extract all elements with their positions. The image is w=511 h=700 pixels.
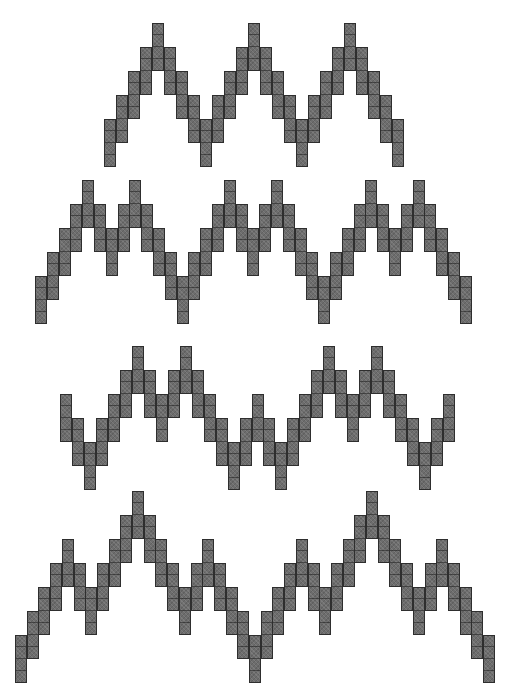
stitch-column: [272, 587, 284, 635]
stitch-column: [389, 539, 401, 587]
stitch-column: [319, 587, 331, 635]
stitch-column: [471, 611, 483, 659]
stitch-column: [155, 539, 167, 587]
stitch-column: [413, 587, 425, 635]
stitch-column: [249, 635, 261, 683]
stitch-column: [179, 587, 191, 635]
stitch-column: [483, 635, 495, 683]
stitch-column: [436, 539, 448, 587]
stitch-column: [448, 563, 460, 611]
stitch-column: [237, 611, 249, 659]
stitch-column: [120, 515, 132, 563]
stitch-column: [354, 515, 366, 563]
pattern-row-4: [0, 0, 511, 700]
stitch-column: [38, 587, 50, 635]
stitch-column: [167, 563, 179, 611]
stitch-column: [132, 491, 144, 539]
stitch-column: [366, 491, 378, 539]
stitch-column: [50, 563, 62, 611]
stitch-column: [85, 587, 97, 635]
stitch-column: [284, 563, 296, 611]
stitch-column: [296, 539, 308, 587]
stitch-column: [331, 563, 343, 611]
stitch-column: [15, 635, 27, 683]
stitch-column: [62, 539, 74, 587]
stitch-column: [97, 563, 109, 611]
stitch-column: [214, 563, 226, 611]
stitch-column: [202, 539, 214, 587]
stitch-column: [401, 563, 413, 611]
